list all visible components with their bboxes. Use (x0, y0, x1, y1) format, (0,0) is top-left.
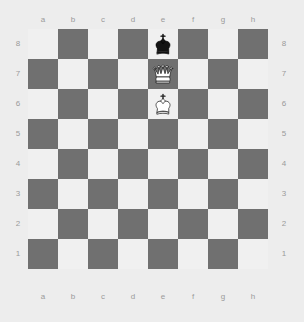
square-c8[interactable] (88, 29, 118, 59)
square-e6[interactable] (148, 89, 178, 119)
square-g6[interactable] (208, 89, 238, 119)
square-h2[interactable] (238, 209, 268, 239)
square-g1[interactable] (208, 239, 238, 269)
rank-label-1-right: 1 (278, 239, 290, 269)
square-b7[interactable] (58, 59, 88, 89)
square-d4[interactable] (118, 149, 148, 179)
rank-label-8-right: 8 (278, 29, 290, 59)
square-d3[interactable] (118, 179, 148, 209)
square-h4[interactable] (238, 149, 268, 179)
rank-label-1-left: 1 (12, 239, 24, 269)
square-e5[interactable] (148, 119, 178, 149)
square-f5[interactable] (178, 119, 208, 149)
rank-label-4-left: 4 (12, 149, 24, 179)
file-label-b-top: b (58, 15, 88, 25)
white-king-piece[interactable] (148, 89, 178, 119)
square-h7[interactable] (238, 59, 268, 89)
square-a6[interactable] (28, 89, 58, 119)
square-a5[interactable] (28, 119, 58, 149)
square-f3[interactable] (178, 179, 208, 209)
rank-label-7-left: 7 (12, 59, 24, 89)
square-c5[interactable] (88, 119, 118, 149)
square-g7[interactable] (208, 59, 238, 89)
square-f7[interactable] (178, 59, 208, 89)
square-d7[interactable] (118, 59, 148, 89)
file-label-h-bottom: h (238, 292, 268, 302)
square-a7[interactable] (28, 59, 58, 89)
rank-label-3-left: 3 (12, 179, 24, 209)
square-b3[interactable] (58, 179, 88, 209)
square-b8[interactable] (58, 29, 88, 59)
file-label-a-bottom: a (28, 292, 58, 302)
square-d5[interactable] (118, 119, 148, 149)
square-f1[interactable] (178, 239, 208, 269)
square-a4[interactable] (28, 149, 58, 179)
square-h5[interactable] (238, 119, 268, 149)
white-queen-piece[interactable] (148, 59, 178, 89)
square-b5[interactable] (58, 119, 88, 149)
square-e7[interactable] (148, 59, 178, 89)
rank-label-5-left: 5 (12, 119, 24, 149)
file-label-f-bottom: f (178, 292, 208, 302)
square-a3[interactable] (28, 179, 58, 209)
square-f2[interactable] (178, 209, 208, 239)
file-label-f-top: f (178, 15, 208, 25)
square-c1[interactable] (88, 239, 118, 269)
square-c2[interactable] (88, 209, 118, 239)
rank-label-6-right: 6 (278, 89, 290, 119)
square-h8[interactable] (238, 29, 268, 59)
square-e4[interactable] (148, 149, 178, 179)
file-labels-bottom: abcdefgh (28, 292, 268, 302)
square-h1[interactable] (238, 239, 268, 269)
rank-labels-left: 87654321 (12, 29, 24, 269)
square-b6[interactable] (58, 89, 88, 119)
square-d2[interactable] (118, 209, 148, 239)
file-label-b-bottom: b (58, 292, 88, 302)
square-h3[interactable] (238, 179, 268, 209)
square-c6[interactable] (88, 89, 118, 119)
rank-labels-right: 87654321 (278, 29, 290, 269)
square-c4[interactable] (88, 149, 118, 179)
square-f8[interactable] (178, 29, 208, 59)
rank-label-3-right: 3 (278, 179, 290, 209)
rank-label-6-left: 6 (12, 89, 24, 119)
square-g4[interactable] (208, 149, 238, 179)
rank-label-5-right: 5 (278, 119, 290, 149)
square-d6[interactable] (118, 89, 148, 119)
file-label-g-bottom: g (208, 292, 238, 302)
square-e3[interactable] (148, 179, 178, 209)
file-label-c-bottom: c (88, 292, 118, 302)
square-h6[interactable] (238, 89, 268, 119)
square-g5[interactable] (208, 119, 238, 149)
rank-label-4-right: 4 (278, 149, 290, 179)
file-label-e-top: e (148, 15, 178, 25)
square-a1[interactable] (28, 239, 58, 269)
square-c7[interactable] (88, 59, 118, 89)
square-f4[interactable] (178, 149, 208, 179)
square-e2[interactable] (148, 209, 178, 239)
square-g8[interactable] (208, 29, 238, 59)
square-e1[interactable] (148, 239, 178, 269)
black-king-piece[interactable] (148, 29, 178, 59)
chessboard[interactable] (28, 29, 268, 269)
square-a8[interactable] (28, 29, 58, 59)
square-g3[interactable] (208, 179, 238, 209)
file-label-c-top: c (88, 15, 118, 25)
square-d8[interactable] (118, 29, 148, 59)
file-label-h-top: h (238, 15, 268, 25)
file-labels-top: abcdefgh (28, 15, 268, 25)
square-g2[interactable] (208, 209, 238, 239)
square-b4[interactable] (58, 149, 88, 179)
square-d1[interactable] (118, 239, 148, 269)
rank-label-2-left: 2 (12, 209, 24, 239)
square-b2[interactable] (58, 209, 88, 239)
square-c3[interactable] (88, 179, 118, 209)
file-label-d-bottom: d (118, 292, 148, 302)
square-a2[interactable] (28, 209, 58, 239)
file-label-d-top: d (118, 15, 148, 25)
square-b1[interactable] (58, 239, 88, 269)
square-f6[interactable] (178, 89, 208, 119)
square-e8[interactable] (148, 29, 178, 59)
file-label-e-bottom: e (148, 292, 178, 302)
file-label-a-top: a (28, 15, 58, 25)
